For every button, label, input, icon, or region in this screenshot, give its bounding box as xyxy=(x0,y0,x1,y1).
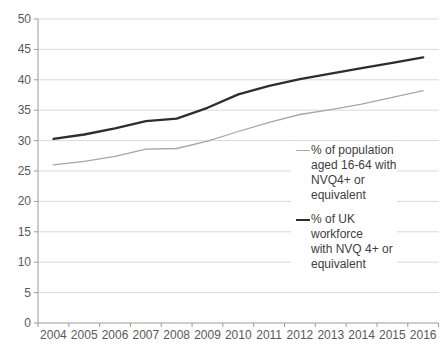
y-axis-label-50: 50 xyxy=(18,12,32,26)
y-axis-label-35: 35 xyxy=(18,103,32,117)
x-axis-label-2014: 2014 xyxy=(348,328,375,342)
legend-line-marker-population xyxy=(296,150,310,151)
x-axis-label-2015: 2015 xyxy=(379,328,406,342)
x-axis-label-2016: 2016 xyxy=(410,328,437,342)
x-axis-label-2006: 2006 xyxy=(102,328,129,342)
x-axis-label-2008: 2008 xyxy=(163,328,190,342)
legend-label-population: % of population aged 16-64 with NVQ4+ or… xyxy=(311,143,396,203)
y-axis-label-15: 15 xyxy=(18,225,32,239)
chart-legend: % of population aged 16-64 with NVQ4+ or… xyxy=(291,141,397,274)
line-chart: 0510152025303540455020042005200620072008… xyxy=(0,0,448,361)
y-axis-label-5: 5 xyxy=(24,286,31,300)
y-axis-label-30: 30 xyxy=(18,134,32,148)
series-line-workforce xyxy=(53,57,423,139)
y-axis-label-40: 40 xyxy=(18,73,32,87)
legend-entry-population: % of population aged 16-64 with NVQ4+ or… xyxy=(296,143,397,203)
legend-entry-workforce: % of UK workforce with NVQ 4+ or equival… xyxy=(296,212,397,272)
x-axis-label-2005: 2005 xyxy=(71,328,98,342)
legend-label-workforce: % of UK workforce with NVQ 4+ or equival… xyxy=(311,212,397,272)
x-axis-label-2012: 2012 xyxy=(287,328,314,342)
x-axis-label-2011: 2011 xyxy=(256,328,282,342)
x-axis-label-2004: 2004 xyxy=(40,328,67,342)
y-axis-label-45: 45 xyxy=(18,42,32,56)
x-axis-label-2010: 2010 xyxy=(225,328,252,342)
x-axis-label-2009: 2009 xyxy=(194,328,221,342)
x-axis-label-2013: 2013 xyxy=(317,328,344,342)
y-axis-label-20: 20 xyxy=(18,194,32,208)
legend-line-marker-workforce xyxy=(296,219,310,221)
x-axis-label-2007: 2007 xyxy=(133,328,160,342)
y-axis-label-0: 0 xyxy=(24,316,31,330)
y-axis-label-25: 25 xyxy=(18,164,32,178)
y-axis-label-10: 10 xyxy=(18,255,32,269)
